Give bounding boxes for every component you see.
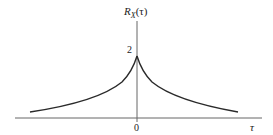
curve-right-branch <box>137 56 238 112</box>
x-tick-label-0: 0 <box>134 122 139 133</box>
curve-left-branch <box>30 56 137 112</box>
y-axis-label: RX(τ) <box>123 5 148 20</box>
x-axis-label: τ <box>250 121 255 133</box>
autocorrelation-chart: RX(τ) 2 0 τ <box>0 0 273 135</box>
chart-canvas: RX(τ) 2 0 τ <box>0 0 273 135</box>
y-tick-label-2: 2 <box>127 44 132 55</box>
